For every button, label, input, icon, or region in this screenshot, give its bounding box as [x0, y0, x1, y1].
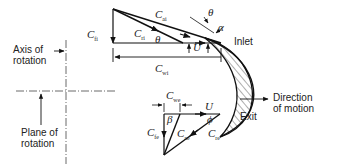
axis-of-rotation-label: Axis of rotation: [13, 44, 46, 66]
c-re-label: Cre: [208, 127, 220, 141]
c-we-label: Cwe: [166, 89, 180, 103]
c-ae-sub: ae: [184, 135, 189, 141]
direction-of-motion-label: Direction of motion: [273, 92, 314, 114]
plane-of-rotation-label: Plane of rotation: [21, 127, 58, 149]
c-ri-sub: ri: [141, 35, 145, 41]
beta-label: β: [167, 113, 172, 125]
direction-line1: Direction: [273, 92, 314, 103]
c-fe-label: Cfe: [147, 126, 159, 140]
direction-line2: of motion: [273, 103, 314, 114]
inlet-triangle: [113, 9, 221, 43]
theta-top-label: θ: [208, 6, 213, 18]
cwi-dimension: [113, 48, 221, 62]
cwe-dimension: [152, 103, 192, 112]
u-exit-label: U: [205, 100, 213, 112]
alpha-label: α: [218, 21, 224, 33]
plane-label-line1: Plane of: [21, 127, 58, 138]
axis-label-line1: Axis of: [13, 44, 46, 55]
c-we-sub: we: [173, 97, 180, 103]
theta-label: θ: [155, 33, 160, 45]
c-fe-sub: fe: [154, 134, 159, 140]
u-inlet-label: U: [193, 41, 201, 53]
c-fi-label: Cfi: [87, 28, 98, 42]
c-wi-sub: wi: [162, 70, 168, 76]
exit-label: Exit: [240, 111, 257, 122]
c-wi-label: Cwi: [155, 62, 168, 76]
inlet-label: Inlet: [234, 36, 253, 47]
c-ri-label: Cri: [134, 27, 145, 41]
axis-label-line2: rotation: [13, 55, 46, 66]
c-ai-label: Cai: [155, 8, 167, 22]
phi-label: ϕ: [207, 113, 213, 125]
plane-label-line2: rotation: [21, 138, 58, 149]
c-fi-sub: fi: [94, 36, 98, 42]
c-re-sub: re: [215, 135, 220, 141]
c-ae-label: Cae: [177, 127, 190, 141]
c-ai-sym-sub: ai: [162, 16, 166, 22]
